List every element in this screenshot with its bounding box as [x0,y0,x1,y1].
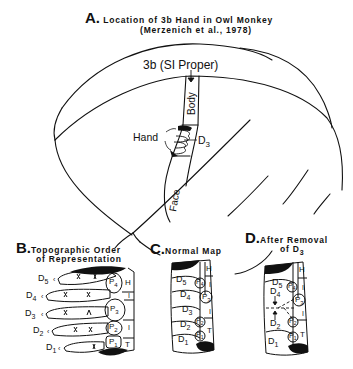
panel-d-digit-d4: D4 [270,286,280,298]
panel-d-pad-p2: P2 [289,317,296,326]
panel-d-side-h: H [299,265,305,274]
panel-d-digit-d1: D1 [268,336,278,348]
panel-d-pad-p3: P3 [295,295,304,306]
panel-d-side-i1: I [302,284,304,291]
panel-d-after-removal-drawing [0,0,353,369]
panel-d-pad-p4: P4 [288,282,295,291]
panel-d-digit-d2: D2 [270,318,280,330]
panel-d-side-i2: I [302,310,304,317]
panel-d-side-t: T [300,330,305,339]
panel-d-pad-p1: P1 [289,332,296,341]
